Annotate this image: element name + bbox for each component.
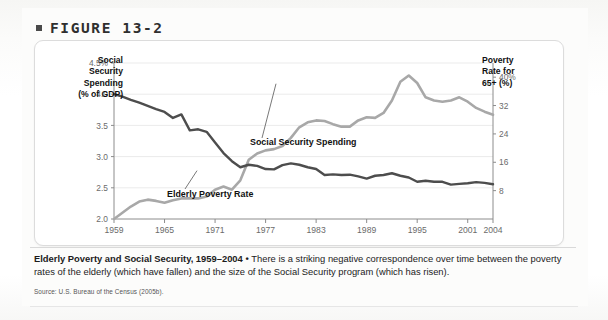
x-tick-label: 1965	[155, 225, 174, 235]
right-tick-label: 16	[499, 157, 509, 167]
left-tick-label: 2.5	[96, 183, 108, 193]
right-tick-label: 8	[499, 186, 504, 196]
x-tick-label: 1971	[206, 225, 225, 235]
right-tick-label: 32	[499, 101, 509, 111]
caption-title: Elderly Poverty and Social Security, 195…	[34, 253, 243, 264]
spending-leader-line	[262, 84, 276, 138]
spending-series-label: Social Security Spending	[250, 137, 357, 147]
figure-number-label: FIGURE 13-2	[50, 20, 164, 36]
left-axis-title-line-4: (% of GDP)	[51, 89, 123, 100]
right-axis-title-line-2: Rate for	[482, 66, 556, 77]
left-tick-label: 3.5	[96, 121, 108, 131]
x-tick-label: 1977	[256, 225, 275, 235]
figure-caption: Elderly Poverty and Social Security, 195…	[34, 252, 574, 278]
left-axis-title-line-2: Security	[51, 66, 123, 77]
figure-page: FIGURE 13-2 2.02.53.03.54.04.5%816243240…	[0, 0, 608, 320]
poverty-leader-line	[185, 171, 197, 189]
right-tick-label: 24	[499, 129, 509, 139]
right-axis-title: Poverty Rate for 65+ (%)	[482, 55, 556, 89]
x-tick-label: 2004	[483, 225, 502, 235]
caption-divider	[30, 247, 576, 248]
page-bottom-rule	[30, 306, 578, 307]
right-axis-title-line-3: 65+ (%)	[482, 78, 556, 89]
chart-card: 2.02.53.03.54.04.5%816243240%19591965197…	[34, 40, 564, 246]
x-tick-label: 1983	[307, 225, 326, 235]
right-axis-title-line-1: Poverty	[482, 55, 556, 66]
x-tick-label: 2001	[458, 225, 477, 235]
left-tick-label: 3.0	[96, 152, 108, 162]
left-axis-title: Social Security Spending (% of GDP)	[51, 55, 123, 101]
x-tick-label: 1995	[408, 225, 427, 235]
left-tick-label: 2.0	[96, 214, 108, 224]
left-axis-title-line-3: Spending	[51, 78, 123, 89]
figure-header: FIGURE 13-2	[36, 20, 164, 36]
poverty-series-label: Elderly Poverty Rate	[167, 189, 253, 199]
figure-source: Source: U.S. Bureau of the Census (2005b…	[34, 288, 574, 295]
square-bullet-icon	[36, 25, 42, 31]
left-axis-title-line-1: Social	[51, 55, 123, 66]
x-tick-label: 1989	[357, 225, 376, 235]
x-tick-label: 1959	[104, 225, 123, 235]
